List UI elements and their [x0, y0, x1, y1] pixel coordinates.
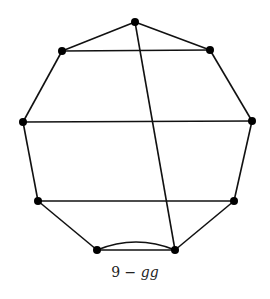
node-upper-left: [58, 47, 66, 55]
edge-top-upper-right: [135, 22, 210, 50]
node-mid-right: [248, 117, 256, 125]
edge-mid-left-lower-left: [23, 122, 38, 201]
caption-label: gg: [141, 264, 159, 280]
node-mid-left: [19, 118, 27, 126]
edge-lower-right-bottom-right: [175, 201, 234, 250]
figure-caption: 9 − gg: [0, 264, 270, 280]
node-bottom-right: [171, 246, 179, 254]
edge-top-upper-left: [62, 22, 135, 51]
node-lower-right: [230, 197, 238, 205]
node-lower-left: [34, 197, 42, 205]
caption-dash: −: [120, 264, 141, 280]
node-top: [131, 18, 139, 26]
node-upper-right: [206, 46, 214, 54]
caption-number: 9: [111, 264, 120, 280]
graph-edges: [23, 22, 252, 250]
curved-edge-bottom-left-bottom-right: [97, 242, 175, 250]
edge-upper-left-mid-left: [23, 51, 62, 122]
edge-upper-left-upper-right: [62, 50, 210, 51]
edge-mid-left-mid-right: [23, 121, 252, 122]
edge-mid-right-lower-right: [234, 121, 252, 201]
node-bottom-left: [93, 246, 101, 254]
graph-nodes: [19, 18, 256, 254]
edge-lower-left-bottom-left: [38, 201, 97, 250]
graph-diagram: [0, 0, 270, 299]
edge-top-bottom-right: [135, 22, 175, 250]
edge-upper-right-mid-right: [210, 50, 252, 121]
